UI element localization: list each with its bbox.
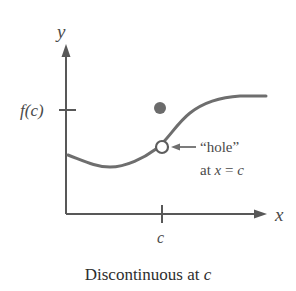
y-axis-tick-label-fc: f(c) [20, 101, 44, 120]
x-axis-label: x [274, 204, 284, 225]
caption-prefix: Discontinuous at [85, 265, 204, 284]
x-axis-tick-label-c: c [157, 229, 164, 246]
figure-canvas: y x f(c) c “hole” at x = c Discontinuous… [0, 0, 296, 291]
annotation-equals: = [221, 162, 237, 178]
annotation-at-x-equals-c: at x = c [200, 162, 244, 178]
open-point-hole-marker [156, 141, 168, 153]
discontinuity-figure: y x f(c) c “hole” at x = c Discontinuous… [0, 0, 296, 291]
x-axis-arrowhead [254, 210, 267, 219]
figure-caption: Discontinuous at c [85, 265, 212, 284]
y-axis-arrowhead [62, 44, 71, 57]
y-axis-label: y [55, 21, 66, 42]
filled-point-marker [154, 102, 166, 114]
annotation-hole-label: “hole” [200, 139, 239, 155]
caption-variable: c [204, 265, 212, 284]
annotation-var-c: c [237, 162, 244, 178]
annotation-arrow-head [171, 144, 180, 151]
annotation-at-prefix: at [200, 162, 215, 178]
function-curve [68, 96, 266, 167]
